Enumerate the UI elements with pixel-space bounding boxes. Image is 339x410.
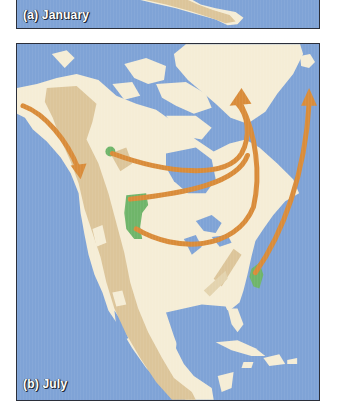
- july-map-graphic: [17, 44, 319, 400]
- panel-label-january: (a) January: [23, 8, 89, 22]
- panel-july-map: (b) July: [16, 43, 320, 401]
- panel-label-july: (b) July: [23, 377, 67, 391]
- panel-january-map: (a) January: [16, 0, 320, 29]
